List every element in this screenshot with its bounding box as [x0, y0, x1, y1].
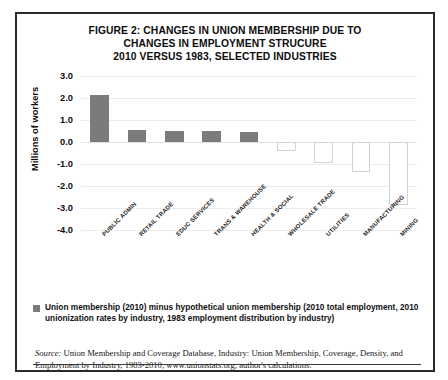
- y-axis-ticks: 3.02.01.00.0-1.0-2.0-3.0-4.0: [41, 76, 73, 230]
- y-tick-label: -3.0: [41, 203, 73, 213]
- legend-swatch-icon: [33, 305, 40, 312]
- source-label: Source:: [35, 348, 61, 358]
- y-tick-label: -4.0: [41, 225, 73, 235]
- chart-legend: Union membership (2010) minus hypothetic…: [33, 302, 423, 325]
- figure-title-line-2: CHANGES IN EMPLOYMENT STRUCURE: [35, 37, 415, 50]
- y-tick-label: -2.0: [41, 181, 73, 191]
- bar: [90, 95, 109, 142]
- y-tick-label: 1.0: [41, 115, 73, 125]
- bar-slot: [81, 76, 118, 230]
- source-note: Source: Union Membership and Coverage Da…: [35, 348, 425, 371]
- bar: [352, 142, 371, 172]
- y-tick-label: 2.0: [41, 93, 73, 103]
- y-axis-title: Millions of workers: [30, 74, 40, 184]
- bar: [314, 142, 333, 163]
- y-tick-label: 0.0: [41, 137, 73, 147]
- bar-slot: [305, 76, 342, 230]
- figure-frame: FIGURE 2: CHANGES IN UNION MEMBERSHIP DU…: [15, 12, 435, 372]
- bar: [165, 131, 184, 142]
- bar-slot: [380, 76, 417, 230]
- bar-slot: [156, 76, 193, 230]
- bar: [202, 131, 221, 142]
- figure-title-line-1: FIGURE 2: CHANGES IN UNION MEMBERSHIP DU…: [35, 24, 415, 37]
- bar-slot: [268, 76, 305, 230]
- source-divider: [33, 345, 421, 346]
- bottom-divider: [33, 364, 421, 365]
- source-text: Union Membership and Coverage Database, …: [35, 348, 403, 370]
- bar: [240, 132, 259, 142]
- figure-title: FIGURE 2: CHANGES IN UNION MEMBERSHIP DU…: [17, 14, 433, 64]
- x-axis-labels: PUBLIC ADMINRETAIL TRADEEDUC SERVICESTRA…: [81, 233, 417, 309]
- bar-slot: [342, 76, 379, 230]
- chart-plot: Millions of workers 3.02.01.00.0-1.0-2.0…: [17, 76, 433, 251]
- bar: [277, 142, 296, 151]
- y-tick-label: 3.0: [41, 71, 73, 81]
- bar: [128, 130, 147, 142]
- figure-title-line-3: 2010 VERSUS 1983, SELECTED INDUSTRIES: [35, 50, 415, 63]
- bar-slot: [193, 76, 230, 230]
- legend-label: Union membership (2010) minus hypothetic…: [45, 302, 423, 325]
- bar-slot: [118, 76, 155, 230]
- y-tick-label: -1.0: [41, 159, 73, 169]
- bar-slot: [230, 76, 267, 230]
